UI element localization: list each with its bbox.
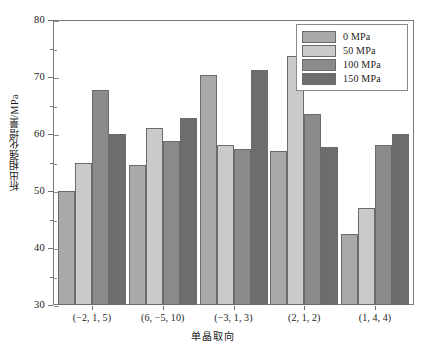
legend-label: 100 MPa (343, 59, 381, 70)
legend-item[interactable]: 100 MPa (302, 58, 401, 71)
legend-swatch (302, 31, 336, 43)
bar[interactable] (146, 128, 163, 305)
bar-group (58, 20, 126, 305)
x-tick-mark (92, 306, 93, 310)
bar[interactable] (358, 208, 375, 305)
bar[interactable] (200, 75, 217, 305)
bar[interactable] (251, 70, 268, 305)
x-tick-mark (163, 306, 164, 310)
x-tick-mark (375, 306, 376, 310)
y-tick-label: 50 (34, 183, 45, 198)
x-axis: (−2, 1, 5)(6, −5, 10)(−3, 1, 3)(2, 1, 2)… (53, 306, 414, 326)
bar[interactable] (75, 163, 92, 306)
y-tick-label: 60 (34, 126, 45, 141)
bar[interactable] (234, 149, 251, 305)
legend-label: 50 MPa (343, 45, 376, 56)
legend-item[interactable]: 0 MPa (302, 30, 401, 43)
bar[interactable] (392, 134, 409, 305)
bar[interactable] (304, 114, 321, 305)
y-tick-label: 80 (34, 12, 45, 27)
y-tick-label: 30 (34, 297, 45, 312)
bar-chart: 析出相强化增量/MPa 304050607080 (−2, 1, 5)(6, −… (0, 0, 426, 359)
legend-swatch (302, 59, 336, 71)
legend: 0 MPa50 MPa100 MPa150 MPa (296, 24, 408, 91)
bar[interactable] (321, 147, 338, 305)
x-tick-mark (304, 306, 305, 310)
legend-swatch (302, 45, 336, 57)
legend-label: 150 MPa (343, 73, 381, 84)
bar[interactable] (180, 118, 197, 305)
bar-group (200, 20, 268, 305)
bar[interactable] (270, 151, 287, 305)
bar[interactable] (375, 145, 392, 305)
y-axis: 304050607080 (0, 0, 53, 359)
bar-group (129, 20, 197, 305)
legend-label: 0 MPa (343, 31, 370, 42)
legend-item[interactable]: 50 MPa (302, 44, 401, 57)
bar[interactable] (287, 56, 304, 305)
bar[interactable] (58, 191, 75, 305)
bar[interactable] (92, 90, 109, 305)
x-tick-mark (234, 306, 235, 310)
x-axis-title: 单晶取向 (0, 328, 426, 343)
bar[interactable] (217, 145, 234, 305)
legend-swatch (302, 73, 336, 85)
bar[interactable] (109, 134, 126, 305)
x-tick-label: (1, 4, 4) (330, 312, 420, 323)
legend-item[interactable]: 150 MPa (302, 72, 401, 85)
bar[interactable] (129, 165, 146, 305)
y-tick-label: 40 (34, 240, 45, 255)
bar[interactable] (163, 141, 180, 305)
y-tick-label: 70 (34, 69, 45, 84)
bar[interactable] (341, 234, 358, 305)
